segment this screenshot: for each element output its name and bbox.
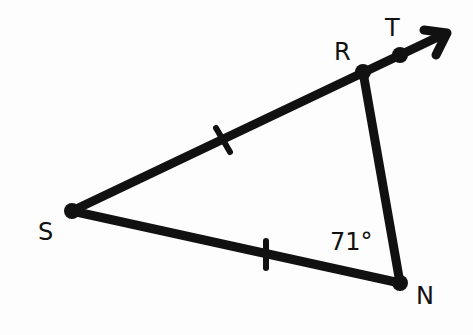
point-t — [392, 47, 408, 63]
geometry-diagram: S R T N 71° — [0, 0, 473, 335]
label-n: N — [416, 282, 434, 310]
angle-label-n: 71° — [330, 228, 373, 256]
point-r — [355, 64, 371, 80]
triangle-figure: S R T N 71° — [0, 0, 473, 335]
point-s — [64, 203, 80, 219]
point-n — [392, 275, 408, 291]
label-t: T — [384, 14, 400, 42]
label-r: R — [334, 38, 351, 66]
label-s: S — [38, 218, 53, 246]
